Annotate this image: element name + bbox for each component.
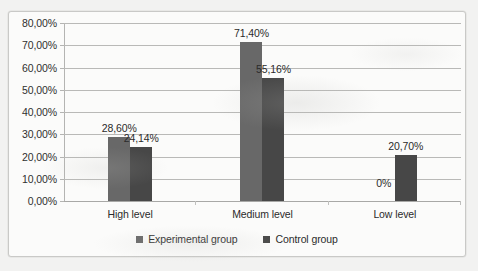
y-axis-tick-label: 80,00%	[22, 17, 57, 29]
bar-value-label: 20,70%	[388, 140, 423, 152]
legend-item[interactable]: Control group	[263, 233, 337, 245]
x-axis-tick	[460, 201, 461, 205]
y-axis-tick-label: 50,00%	[22, 84, 57, 96]
legend-swatch-icon	[263, 236, 270, 243]
legend-label: Experimental group	[148, 233, 237, 245]
legend-item[interactable]: Experimental group	[136, 233, 237, 245]
gridline	[64, 201, 461, 202]
bar-control[interactable]	[130, 147, 152, 201]
x-axis-tick	[195, 201, 196, 205]
bar-group: 28,60%24,14%High level	[64, 23, 196, 201]
x-axis-category-label: Medium level	[232, 208, 293, 220]
bar-group: 0%20,70%Low level	[329, 23, 461, 201]
x-axis-category-label: High level	[108, 208, 153, 220]
bar-control[interactable]	[395, 155, 417, 201]
bar-value-label: 71,40%	[234, 27, 269, 39]
y-axis-tick-label: 10,00%	[22, 173, 57, 185]
y-axis-tick-label: 40,00%	[22, 106, 57, 118]
chart-legend: Experimental groupControl group	[9, 233, 465, 245]
bar-value-label: 55,16%	[256, 63, 291, 75]
plot-area: 80,00%70,00%60,00%50,00%40,00%30,00%20,0…	[64, 23, 461, 201]
legend-swatch-icon	[136, 236, 143, 243]
bar-value-label: 24,14%	[124, 132, 159, 144]
bar-control[interactable]	[262, 78, 284, 201]
y-axis-tick-label: 20,00%	[22, 151, 57, 163]
chart-frame: 80,00%70,00%60,00%50,00%40,00%30,00%20,0…	[8, 11, 466, 257]
y-axis-tick-label: 30,00%	[22, 128, 57, 140]
x-axis-tick	[328, 201, 329, 205]
bar-group: 71,40%55,16%Medium level	[196, 23, 328, 201]
y-axis-tick-label: 0,00%	[28, 195, 57, 207]
x-axis-category-label: Low level	[373, 208, 416, 220]
y-axis-tick	[60, 201, 64, 202]
y-axis-tick-label: 70,00%	[22, 39, 57, 51]
bar-value-label: 0%	[376, 177, 391, 189]
legend-label: Control group	[275, 233, 337, 245]
bar-experimental[interactable]	[108, 137, 130, 201]
y-axis-tick-label: 60,00%	[22, 62, 57, 74]
